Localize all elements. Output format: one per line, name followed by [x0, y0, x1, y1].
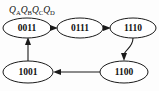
edge-0111-to-1110-head-group	[103, 25, 111, 31]
state-node-1110[interactable]: 1110	[110, 18, 156, 38]
edge-0111-to-1110-arrowhead	[103, 25, 111, 31]
state-node-0011-label: 0011	[18, 23, 37, 33]
state-node-1110-label: 1110	[124, 23, 142, 33]
edge-1110-to-1100	[121, 38, 133, 61]
edge-0011-to-0111-arrowhead	[50, 25, 58, 31]
figure-canvas: QAQBQCQD 0011	[0, 0, 159, 91]
edge-1100-to-1001	[53, 69, 100, 75]
edge-1100-to-1001-arrowhead	[53, 69, 61, 75]
state-node-1001-label: 1001	[19, 67, 38, 77]
state-node-1001[interactable]: 1001	[3, 61, 53, 83]
var-q-d-sub: D	[50, 9, 55, 16]
edge-1110-to-1100-arrowhead	[121, 53, 127, 61]
state-node-0011[interactable]: 0011	[3, 18, 51, 38]
edge-1110-to-1100-line	[124, 38, 133, 55]
edge-0011-to-0111-head-group	[50, 25, 58, 31]
edge-1001-to-0011	[25, 37, 31, 61]
state-node-0111-label: 0111	[71, 23, 89, 33]
state-diagram: QAQBQCQD 0011	[0, 0, 159, 91]
state-node-0111[interactable]: 0111	[57, 18, 103, 38]
state-node-1100[interactable]: 1100	[100, 61, 148, 83]
variable-label: QAQBQCQD	[9, 5, 55, 16]
state-node-1100-label: 1100	[115, 67, 134, 77]
